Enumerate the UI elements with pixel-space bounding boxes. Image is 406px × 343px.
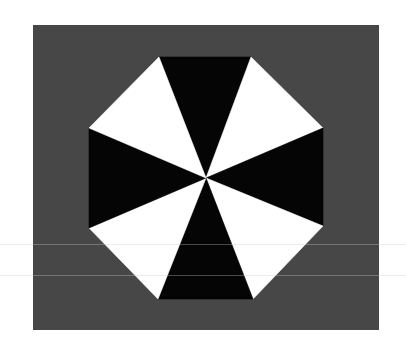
scan-line xyxy=(0,275,406,276)
octagon-figure xyxy=(0,0,406,343)
scan-line xyxy=(0,244,406,245)
octagon-sectors xyxy=(89,57,323,299)
